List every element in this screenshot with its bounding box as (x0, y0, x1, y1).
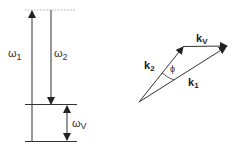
k1-vector (139, 47, 226, 102)
phi-label: ϕ (170, 64, 175, 74)
kV-label: kV (196, 32, 208, 46)
omega1-label: ω1 (8, 47, 22, 62)
k2-vector (139, 47, 183, 102)
k2-label: k2 (144, 59, 155, 73)
wavevector-diagram: k2 kV k1 ϕ (139, 32, 227, 102)
kV-vector (183, 46, 227, 47)
k1-label: k1 (188, 76, 199, 90)
omega2-label: ω2 (54, 47, 68, 62)
omegaV-label: ωV (72, 117, 87, 131)
energy-level-diagram: ω1 ω2 ωV (8, 10, 87, 142)
diagram-canvas: ω1 ω2 ωV k2 kV k1 ϕ (0, 0, 238, 149)
phi-angle-arc (162, 73, 174, 80)
